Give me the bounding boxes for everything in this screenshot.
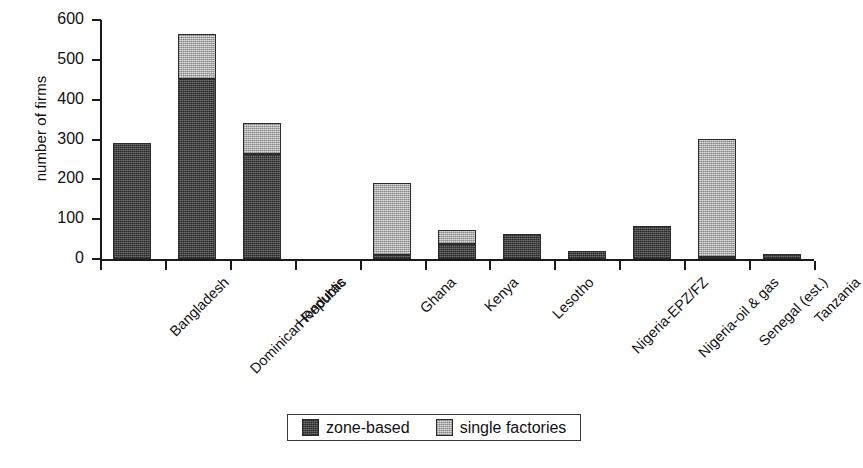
y-tick-mark xyxy=(92,139,101,141)
legend-item-zone-based: zone-based xyxy=(302,419,410,436)
bar-dominican-republic xyxy=(178,0,216,259)
bar-nigeria-epz-fz xyxy=(568,0,606,259)
y-tick-label: 500 xyxy=(34,51,84,67)
bar-nigeria-oil-gas xyxy=(633,0,671,259)
x-tick-mark xyxy=(684,261,686,270)
bar-segment-single-factories xyxy=(698,139,736,257)
x-tick-mark xyxy=(360,261,362,270)
bar-lesotho xyxy=(503,0,541,259)
legend-item-single-factories: single factories xyxy=(436,419,567,436)
x-axis-label-bangladesh: Bangladesh xyxy=(167,274,232,339)
x-axis-label-ghana: Ghana xyxy=(417,274,459,316)
x-tick-mark xyxy=(165,261,167,270)
y-tick-label: 400 xyxy=(34,91,84,107)
bar-honduras xyxy=(243,0,281,259)
bar-segment-zone-based xyxy=(633,226,671,259)
x-axis-label-lesotho: Lesotho xyxy=(549,274,597,322)
bar-segment-single-factories xyxy=(178,34,216,79)
x-tick-mark xyxy=(749,261,751,270)
bar-segment-zone-based xyxy=(438,244,476,259)
y-tick-mark xyxy=(92,178,101,180)
bar-segment-zone-based xyxy=(113,143,151,259)
y-tick-label: 600 xyxy=(34,11,84,27)
bar-segment-zone-based xyxy=(243,154,281,259)
bar-senegal-est xyxy=(698,0,736,259)
x-tick-mark xyxy=(814,261,816,270)
x-axis-line xyxy=(100,259,814,261)
bar-bangladesh xyxy=(113,0,151,259)
legend-label-zone-based: zone-based xyxy=(326,420,410,436)
x-tick-mark xyxy=(554,261,556,270)
bar-segment-single-factories xyxy=(438,230,476,245)
light-swatch-icon xyxy=(436,419,453,436)
dark-swatch-icon xyxy=(302,419,319,436)
x-tick-mark xyxy=(619,261,621,270)
x-tick-mark xyxy=(100,261,102,270)
x-tick-mark xyxy=(295,261,297,270)
bar-segment-zone-based xyxy=(503,234,541,259)
bar-segment-zone-based xyxy=(698,257,736,259)
y-tick-mark xyxy=(92,19,101,21)
bar-segment-zone-based xyxy=(763,254,801,259)
bar-segment-zone-based xyxy=(568,251,606,259)
bar-segment-zone-based xyxy=(373,255,411,259)
bar-segment-single-factories xyxy=(373,183,411,255)
y-tick-mark xyxy=(92,59,101,61)
bar-segment-single-factories xyxy=(243,123,281,154)
y-tick-label: 100 xyxy=(34,210,84,226)
x-tick-mark xyxy=(425,261,427,270)
x-tick-mark xyxy=(489,261,491,270)
bar-kenya xyxy=(438,0,476,259)
x-tick-mark xyxy=(230,261,232,270)
y-tick-label: 0 xyxy=(34,250,84,266)
bar-segment-zone-based xyxy=(178,79,216,259)
y-axis-line xyxy=(100,20,102,261)
bar-tanzania xyxy=(763,0,801,259)
y-tick-label: 300 xyxy=(34,131,84,147)
y-tick-mark xyxy=(92,218,101,220)
x-axis-label-honduras: Honduras xyxy=(293,274,349,330)
chart-legend: zone-based single factories xyxy=(287,414,581,441)
legend-label-single-factories: single factories xyxy=(460,420,567,436)
y-tick-mark xyxy=(92,99,101,101)
bar-ghana xyxy=(373,0,411,259)
y-tick-mark xyxy=(92,258,101,260)
x-axis-label-kenya: Kenya xyxy=(481,274,521,314)
y-tick-label: 200 xyxy=(34,170,84,186)
